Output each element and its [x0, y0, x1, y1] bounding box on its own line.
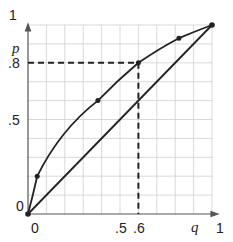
y-tick-05: .5 [8, 112, 20, 128]
y-tick-1: 1 [9, 7, 17, 23]
y-tick-0: 0 [16, 198, 24, 214]
x-tick-06: .6 [133, 220, 145, 236]
y-axis-label: p [11, 40, 20, 56]
x-tick-0: 0 [31, 220, 39, 236]
x-tick-1: 1 [216, 220, 224, 236]
y-tick-08: .8 [8, 55, 20, 71]
x-tick-05: .5 [115, 220, 127, 236]
probability-diagram: 1 p .8 .5 0 0 .5 .6 q 1 [0, 0, 233, 242]
x-axis-label: q [191, 219, 199, 235]
